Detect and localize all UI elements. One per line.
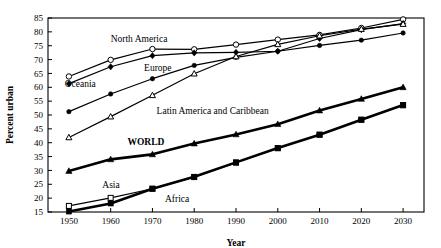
- y-tick-label: 70: [34, 55, 44, 65]
- data-point-filled-square: [233, 160, 238, 165]
- x-axis-ticks: 195019601970198019902000201020202030: [60, 208, 413, 226]
- x-tick-label: 2030: [394, 216, 413, 226]
- y-tick-label: 30: [34, 166, 44, 176]
- y-tick-label: 25: [34, 179, 44, 189]
- y-tick-label: 80: [34, 27, 44, 37]
- series-line: [69, 87, 403, 171]
- data-point-open-square: [66, 203, 71, 208]
- y-tick-label: 35: [34, 152, 44, 162]
- data-point-filled-circle: [317, 43, 321, 47]
- data-point-filled-square: [150, 186, 155, 191]
- data-point-filled-square: [108, 201, 113, 206]
- x-tick-label: 1970: [143, 216, 162, 226]
- series-label-africa: Africa: [165, 194, 190, 204]
- data-point-open-square: [108, 195, 113, 200]
- x-tick-label: 2000: [269, 216, 288, 226]
- data-point-filled-circle: [401, 31, 405, 35]
- y-tick-label: 60: [34, 82, 44, 92]
- data-point-open-triangle: [108, 114, 114, 119]
- data-point-open-circle: [233, 42, 238, 47]
- series-label-asia: Asia: [102, 180, 120, 190]
- series-label-europe: Europe: [144, 63, 171, 73]
- x-tick-label: 2010: [311, 216, 330, 226]
- data-point-filled-diamond: [150, 53, 155, 59]
- x-axis-title: Year: [227, 238, 247, 248]
- data-point-filled-diamond: [108, 64, 113, 70]
- y-axis-ticks: 152025303540455055606570758085: [34, 13, 52, 217]
- y-axis-title: Percent urban: [5, 85, 15, 144]
- series-label-north-america: North America: [111, 34, 169, 44]
- series-label-world: WORLD: [127, 137, 164, 147]
- data-point-open-circle: [150, 46, 155, 51]
- series-label-latin-america-and-caribbean: Latin America and Caribbean: [157, 106, 269, 116]
- data-point-filled-circle: [150, 76, 154, 80]
- x-tick-label: 1980: [185, 216, 204, 226]
- series-line: [69, 105, 403, 206]
- data-point-filled-circle: [67, 109, 71, 113]
- y-tick-label: 40: [34, 138, 44, 148]
- series-asia: [66, 103, 405, 209]
- x-tick-label: 2020: [352, 216, 371, 226]
- x-tick-label: 1990: [227, 216, 246, 226]
- data-point-filled-square: [66, 209, 71, 214]
- data-point-open-triangle: [149, 92, 155, 97]
- data-point-filled-square: [317, 132, 322, 137]
- chart-canvas: 152025303540455055606570758085 195019601…: [0, 0, 441, 248]
- x-tick-label: 1960: [102, 216, 121, 226]
- data-point-filled-square: [401, 102, 406, 107]
- series-north-america: [66, 17, 406, 79]
- data-point-filled-square: [192, 174, 197, 179]
- data-point-filled-circle: [192, 63, 196, 67]
- data-point-filled-square: [359, 117, 364, 122]
- urbanization-line-chart: 152025303540455055606570758085 195019601…: [0, 0, 441, 248]
- y-tick-label: 55: [34, 96, 44, 106]
- data-point-filled-square: [275, 145, 280, 150]
- y-tick-label: 85: [34, 13, 44, 23]
- x-tick-label: 1950: [60, 216, 79, 226]
- series-label-oceania: Oceania: [65, 79, 97, 89]
- y-tick-label: 45: [34, 124, 44, 134]
- data-point-open-circle: [108, 57, 113, 62]
- data-point-filled-circle: [359, 38, 363, 42]
- y-tick-label: 65: [34, 69, 44, 79]
- data-point-filled-circle: [108, 92, 112, 96]
- y-tick-label: 15: [34, 207, 44, 217]
- y-tick-label: 20: [34, 193, 44, 203]
- y-tick-label: 50: [34, 110, 44, 120]
- data-point-filled-circle: [276, 49, 280, 53]
- y-tick-label: 75: [34, 41, 44, 51]
- series-line: [69, 19, 403, 76]
